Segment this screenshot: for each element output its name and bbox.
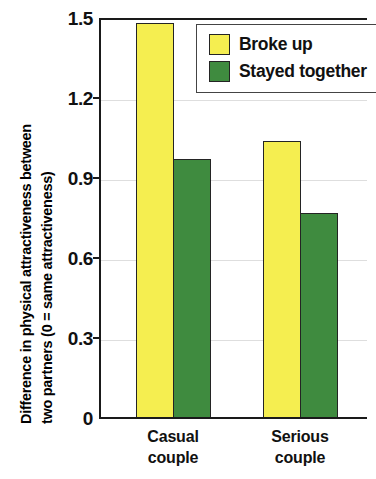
legend-label-broke-up: Broke up	[239, 34, 312, 55]
legend-label-stayed-together: Stayed together	[239, 61, 367, 82]
legend-swatch-stayed-together	[209, 61, 230, 82]
legend: Broke up Stayed together	[196, 24, 376, 93]
y-tick-label-0.3: 0.3	[49, 329, 93, 348]
legend-swatch-broke-up	[209, 34, 230, 55]
x-axis-line	[99, 417, 367, 419]
legend-item-broke-up: Broke up	[209, 31, 376, 58]
legend-item-stayed-together: Stayed together	[209, 58, 376, 85]
y-tick-label-1.2: 1.2	[49, 89, 93, 108]
bar-casual-broke-up	[136, 23, 174, 418]
y-tick-label-0.9: 0.9	[49, 169, 93, 188]
bar-serious-stayed-together	[300, 213, 338, 418]
y-tick-label-0: 0	[49, 409, 93, 428]
y-axis-title: Difference in physical attractiveness be…	[0, 0, 66, 430]
y-axis-title-line-1: Difference in physical attractiveness be…	[18, 124, 34, 424]
x-axis-label-casual-couple-line-1: Casual	[118, 426, 228, 447]
bar-casual-stayed-together	[173, 159, 211, 418]
x-axis-label-casual-couple-line-2: couple	[118, 447, 228, 468]
y-tick-label-0.6: 0.6	[49, 249, 93, 268]
x-axis-label-serious-couple: Serious couple	[245, 426, 355, 468]
y-axis-title-line-2: two partners (0 = same attractiveness)	[39, 172, 55, 424]
bar-serious-broke-up	[263, 141, 301, 418]
x-axis-label-serious-couple-line-1: Serious	[245, 426, 355, 447]
y-tick-label-1.5: 1.5	[49, 9, 93, 28]
x-axis-label-casual-couple: Casual couple	[118, 426, 228, 468]
x-axis-label-serious-couple-line-2: couple	[245, 447, 355, 468]
